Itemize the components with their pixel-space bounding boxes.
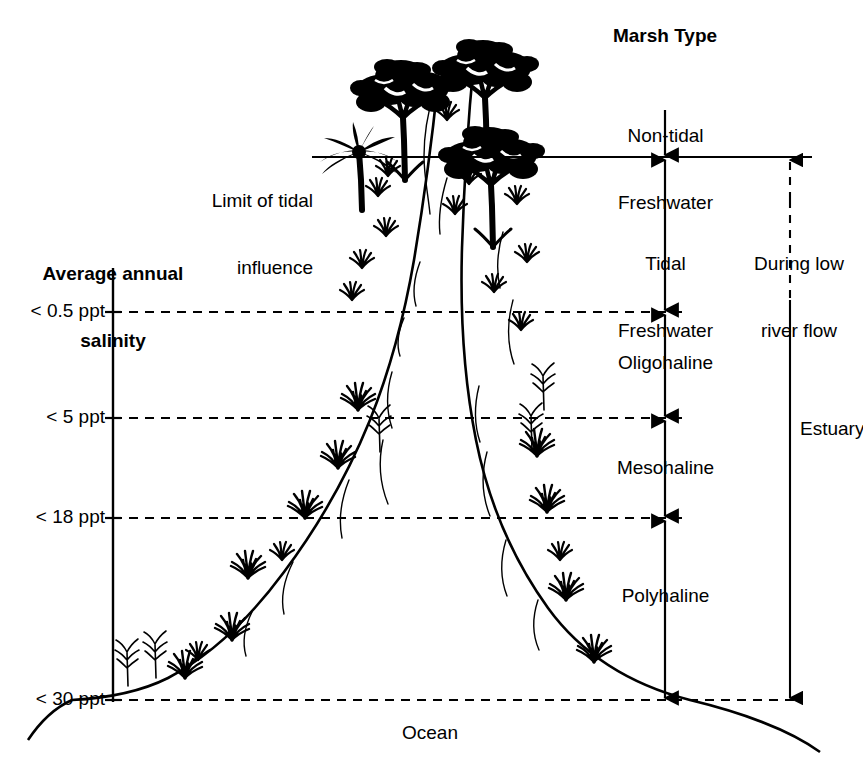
low-river-flow-label-line2: river flow <box>736 320 862 342</box>
marsh-zone-label-oligohaline: Oligohaline <box>578 352 753 374</box>
vegetation-trees <box>320 39 545 247</box>
low-river-flow-label: During low river flow <box>736 208 862 387</box>
marsh-type-title: Marsh Type <box>575 25 755 47</box>
marsh-zone-1-line2: Freshwater <box>578 320 753 342</box>
marsh-zone-label-mesohaline: Mesohaline <box>578 457 753 479</box>
ocean-label: Ocean <box>330 722 530 744</box>
salinity-tick-label-3: < 30 ppt <box>0 688 105 710</box>
salinity-tick-label-2: < 18 ppt <box>0 506 105 528</box>
salinity-axis-title-line2: salinity <box>28 330 198 352</box>
marsh-zone-1-line1: Tidal <box>578 253 753 275</box>
low-river-flow-label-line1: During low <box>736 253 862 275</box>
tidal-influence-label-line1: Limit of tidal <box>165 190 313 212</box>
marsh-zone-0-line1: Non-tidal <box>578 125 753 147</box>
marsh-zone-label-polyhaline: Polyhaline <box>578 585 753 607</box>
salinity-tick-label-0: < 0.5 ppt <box>0 300 105 322</box>
tidal-influence-label-line2: influence <box>165 257 313 279</box>
salinity-tick-label-1: < 5 ppt <box>0 406 105 428</box>
tidal-influence-label: Limit of tidal influence <box>165 145 313 324</box>
estuary-marsh-zonation-diagram: Average annual salinity < 0.5 ppt < 5 pp… <box>0 0 863 770</box>
estuary-label: Estuary <box>800 418 863 440</box>
